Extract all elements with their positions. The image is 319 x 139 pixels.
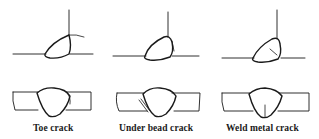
fillet-weld-toe-crack — [13, 10, 93, 58]
butt-weld-bead — [37, 88, 70, 117]
fillet-weld-bead — [145, 37, 173, 61]
butt-weld-bead — [249, 88, 282, 118]
fillet-weld-bead — [45, 35, 71, 58]
caption-underbead-crack: Under bead crack — [119, 123, 193, 133]
butt-plates — [13, 92, 91, 110]
butt-plates — [116, 93, 200, 111]
fillet-weld-bead — [253, 38, 281, 62]
panel-toe-crack — [13, 10, 93, 117]
butt-weld-weld-metal-crack — [222, 88, 309, 118]
fillet-weld-weld-metal-crack — [222, 10, 305, 62]
fillet-weld-underbead-crack — [113, 12, 199, 60]
underbead-crack-mark-butt — [139, 99, 150, 112]
weld-crack-types-figure: Toe crack Under bead crack Weld metal cr… — [0, 0, 319, 139]
butt-weld-toe-crack — [13, 88, 91, 117]
caption-toe-crack: Toe crack — [33, 123, 73, 133]
toe-crack-mark — [69, 35, 84, 37]
panel-underbead-crack — [113, 12, 200, 117]
weld-metal-crack-mark — [270, 49, 277, 55]
panel-weld-metal-crack — [222, 10, 309, 118]
caption-weld-metal-crack: Weld metal crack — [226, 123, 299, 133]
butt-weld-underbead-crack — [116, 88, 200, 117]
